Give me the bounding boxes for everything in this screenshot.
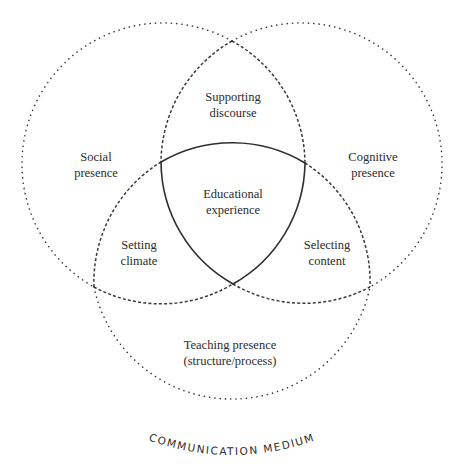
educational-experience-label: Educational experience — [203, 186, 263, 218]
setting-climate-label: Setting climate — [121, 237, 158, 269]
venn-diagram-svg: COMMUNICATION MEDIUM — [0, 0, 461, 473]
cognitive-inner-arc-lower — [233, 284, 370, 303]
selecting-content-label: Selecting content — [304, 237, 351, 269]
teaching-presence-label: Teaching presence (structure/process) — [183, 337, 276, 369]
venn-diagram: COMMUNICATION MEDIUM Social presence Cog… — [0, 0, 461, 473]
communication-medium-caption: COMMUNICATION MEDIUM — [148, 431, 317, 457]
social-inner-arc-lower — [94, 284, 233, 304]
supporting-discourse-label: Supporting discourse — [205, 89, 261, 121]
social-presence-label: Social presence — [74, 149, 118, 181]
cognitive-presence-label: Cognitive presence — [348, 149, 397, 181]
